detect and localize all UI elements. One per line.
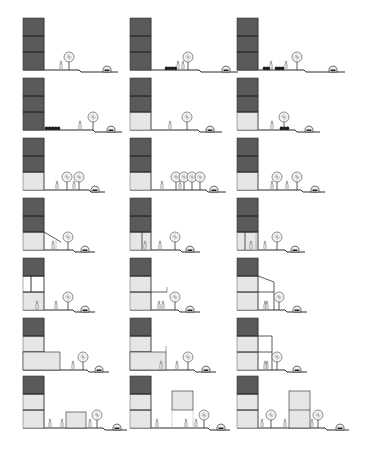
building-floor-dark — [237, 376, 258, 394]
person-body — [36, 303, 38, 310]
person-head — [286, 181, 288, 183]
person-body — [261, 421, 263, 428]
building-floor-dark — [23, 318, 44, 336]
tree-icon — [292, 172, 302, 190]
section-cell-r4c2 — [130, 198, 200, 252]
building-floor-dark — [130, 52, 151, 70]
building-floor-dark — [130, 258, 151, 276]
building-floor-dark — [23, 138, 44, 156]
tree-icon — [183, 52, 193, 70]
tree-icon — [199, 410, 209, 428]
tree-icon — [182, 112, 192, 130]
building-floor-light — [237, 172, 258, 190]
building-floor-light — [237, 352, 258, 370]
car-wheels — [83, 250, 88, 252]
person-icon — [176, 361, 178, 370]
car-body — [293, 306, 301, 312]
building-floor-light — [130, 292, 151, 310]
car-wheels — [204, 370, 209, 372]
car-body — [107, 126, 115, 132]
building-floor-light — [237, 232, 258, 250]
person-head — [160, 361, 162, 363]
section-cell-r4c3 — [237, 198, 305, 252]
building-floor-dark — [23, 36, 44, 52]
car-icon — [202, 366, 210, 372]
tree-icon — [170, 232, 180, 250]
person-head — [89, 419, 91, 421]
building-floor-light — [23, 292, 44, 310]
person-head — [261, 419, 263, 421]
tree-icon — [170, 292, 180, 310]
person-head — [72, 361, 74, 363]
car-body — [210, 186, 218, 192]
person-body — [61, 421, 63, 428]
person-body — [60, 63, 62, 70]
building-floor-light — [237, 112, 258, 130]
person-icon — [271, 121, 273, 130]
building-floor-dark — [237, 318, 258, 336]
hedge-leaf — [281, 67, 285, 71]
car-body — [95, 366, 103, 372]
car-wheels — [293, 250, 298, 252]
building-floor-dark — [23, 258, 44, 276]
person-head — [169, 121, 171, 123]
car-body — [217, 424, 225, 430]
person-icon — [36, 301, 38, 310]
person-body — [159, 243, 161, 250]
building-floor-dark — [23, 112, 44, 130]
car-wheels — [188, 250, 193, 252]
building-floor-light — [23, 410, 44, 428]
section-cell-r7c2 — [130, 376, 230, 430]
car-body — [206, 126, 214, 132]
person-head — [266, 361, 268, 363]
building-floor-light — [23, 394, 44, 410]
tree-icon — [63, 292, 73, 310]
diagram-canvas — [0, 0, 369, 454]
person-body — [264, 243, 266, 250]
car-body — [311, 186, 319, 192]
section-cell-r6c3 — [237, 318, 307, 372]
tree-icon — [78, 352, 88, 370]
car-wheels — [212, 190, 217, 192]
tree-icon — [64, 52, 74, 70]
person-icon — [311, 419, 313, 428]
building-floor-light — [23, 232, 44, 250]
section-cell-r3c3 — [237, 138, 325, 192]
building-floor-dark — [237, 36, 258, 52]
section-cell-r1c3 — [237, 18, 345, 72]
person-head — [79, 121, 81, 123]
person-icon — [264, 361, 266, 370]
person-head — [270, 61, 272, 63]
car-icon — [95, 366, 103, 372]
car-body — [336, 424, 344, 430]
person-body — [271, 183, 273, 190]
person-icon — [52, 241, 54, 250]
second-block — [289, 391, 310, 428]
person-head — [179, 181, 181, 183]
tree-icon — [272, 172, 282, 190]
person-body — [284, 421, 286, 428]
car-icon — [291, 246, 299, 252]
person-head — [176, 361, 178, 363]
car-wheels — [109, 130, 114, 132]
car-wheels — [295, 310, 300, 312]
car-icon — [311, 186, 319, 192]
section-cell-r3c2 — [130, 138, 226, 192]
car-icon — [217, 424, 225, 430]
building-floor-dark — [130, 376, 151, 394]
section-cell-r4c1 — [23, 198, 95, 252]
person-head — [158, 301, 160, 303]
person-body — [156, 421, 158, 428]
building-floor-light — [237, 336, 258, 352]
building-floor-dark — [23, 96, 44, 112]
building-floor-dark — [23, 18, 44, 36]
car-body — [113, 424, 121, 430]
person-body — [179, 183, 181, 190]
building-floor-dark — [130, 216, 151, 232]
person-head — [156, 419, 158, 421]
person-body — [89, 421, 91, 428]
person-body — [72, 363, 74, 370]
building-floor-dark — [23, 376, 44, 394]
person-icon — [55, 301, 57, 310]
car-wheels — [188, 310, 193, 312]
